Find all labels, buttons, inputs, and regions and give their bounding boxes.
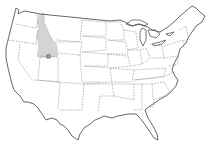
country-outline [6, 6, 205, 140]
highlighted-state-idaho[interactable] [36, 13, 58, 58]
us-map-svg [0, 0, 216, 152]
state-borders [8, 13, 188, 112]
great-lakes [126, 20, 174, 46]
us-map [0, 0, 216, 152]
